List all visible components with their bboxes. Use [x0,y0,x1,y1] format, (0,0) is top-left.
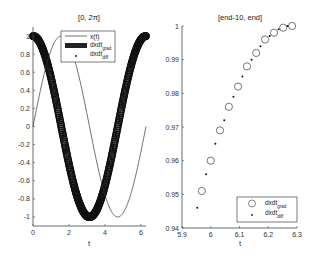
diff-marker [232,96,234,98]
legend-thick-band-icon [65,43,87,48]
legend-diff-label: dxdt [90,50,102,57]
x-tick-label: 0 [31,229,35,236]
y-tick-label: -0.4 [18,159,30,166]
grad-marker [225,103,232,110]
right-plot-title: [end-10, end] [218,13,262,22]
grad-marker [261,36,268,43]
y-tick-label: -0.2 [18,141,30,148]
x-tick-label: 5.9 [177,231,187,238]
diff-marker [259,45,261,47]
y-tick-label: 0.2 [20,105,30,112]
x-tick-label: 6 [209,231,213,238]
grad-marker [280,24,287,31]
right-plot-data [196,22,295,208]
grad-marker [234,83,241,90]
y-tick-label: 0.6 [20,69,30,76]
figure: [0, 2π] 0246-1-0.8-0.6-0.4-0.200.20.40.6… [0,0,317,261]
legend-x-label: x(t) [90,33,99,41]
legend-dot-icon [75,55,77,57]
diff-marker [241,76,243,78]
grad-marker [253,49,260,56]
diff-marker [205,173,207,175]
x-tick-label: 6.1 [235,231,245,238]
grad-marker [270,29,277,36]
left-x-label: t [88,239,91,248]
diff-marker [196,207,198,209]
x-tick-label: 6.2 [263,231,273,238]
grad-marker [243,63,250,70]
y-tick-label: 0.8 [20,51,30,58]
y-tick-label: -0.8 [18,195,30,202]
right-legend: dxdtgrad dxdtdiff [237,197,297,222]
y-tick-label: 0.95 [165,191,179,198]
left-plot-title: [0, 2π] [78,13,100,22]
grad-marker [216,127,223,134]
grad-marker [289,22,296,29]
diff-marker [278,28,280,30]
diff-marker [223,119,225,121]
right-plot: [end-10, end] 5.966.16.26.30.940.950.960… [165,13,302,248]
x-tick-label: 2 [67,229,71,236]
diff-marker [214,143,216,145]
left-plot: [0, 2π] 0246-1-0.8-0.6-0.4-0.200.20.40.6… [18,13,149,248]
diff-marker [287,25,289,27]
x-tick-label: 4 [103,229,107,236]
y-tick-label: 0.99 [165,56,179,63]
y-tick-label: 0.94 [165,225,179,232]
y-tick-label: 1 [175,23,179,30]
legend-dot-icon [251,214,253,216]
y-tick-label: 0.96 [165,157,179,164]
diff-marker [269,35,271,37]
left-legend: x(t) dxdtgrad dxdtdiff [61,31,115,62]
y-tick-label: -0.6 [18,177,30,184]
y-tick-label: 0 [26,123,30,130]
x-tick-label: 6.3 [292,231,302,238]
legend-grad-label: dxdt [90,41,102,48]
y-tick-label: 0.4 [20,87,30,94]
x-tick-label: 6 [139,229,143,236]
y-tick-label: 1 [26,33,30,40]
y-tick-label: -1 [24,213,30,220]
legend-grad-label: dxdt [265,199,277,206]
grad-marker [207,157,214,164]
legend-diff-label: dxdt [265,209,277,216]
y-tick-label: 0.98 [165,90,179,97]
right-x-label: t [239,239,242,248]
y-tick-label: 0.97 [165,124,179,131]
diff-marker [251,59,253,61]
grad-marker [198,187,205,194]
